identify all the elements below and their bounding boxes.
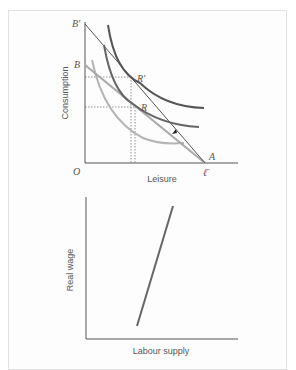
- y-axis-label-real-wage: Real wage: [65, 249, 75, 292]
- label-a: A: [208, 151, 216, 162]
- label-b: B: [74, 59, 80, 70]
- bottom-diagram: Labour supply Real wage: [65, 197, 238, 356]
- label-r: R: [140, 102, 147, 113]
- x-axis-label-leisure: Leisure: [147, 174, 177, 184]
- label-l-bar: ℓ̄: [203, 167, 210, 178]
- labour-supply-curve: [137, 206, 173, 326]
- top-diagram: B′ B R′ R A O ℓ̄ Leisure Consumption: [60, 18, 238, 184]
- label-r-prime: R′: [136, 73, 146, 84]
- indifference-curve-mid: [104, 45, 199, 127]
- label-origin: O: [73, 166, 80, 177]
- x-axis-label-labour-supply: Labour supply: [133, 346, 190, 356]
- y-axis-label-consumption: Consumption: [60, 66, 70, 119]
- label-b-prime: B′: [72, 18, 81, 29]
